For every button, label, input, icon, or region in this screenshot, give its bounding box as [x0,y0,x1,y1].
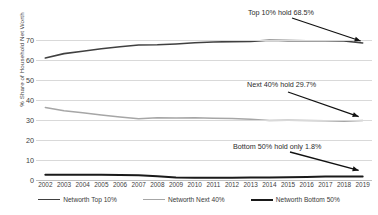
series-lines [36,40,372,180]
legend-label: Networth Top 10% [63,196,117,203]
x-tick-label: 2014 [262,181,276,188]
gridline [36,60,372,61]
chart-legend: Networth Top 10%Networth Next 40%Networt… [0,196,378,203]
y-tick-label: 0 [20,176,34,185]
legend-swatch-icon [251,199,273,201]
x-tick-label: 2012 [225,181,239,188]
x-tick-label: 2005 [94,181,108,188]
y-tick-label: 40 [20,96,34,105]
legend-label: Networth Next 40% [168,196,225,203]
x-axis-tick-labels: 2002200320042005200620072008200920102011… [36,181,372,193]
legend-item[interactable]: Networth Bottom 50% [251,196,340,203]
x-tick-label: 2013 [244,181,258,188]
y-tick-label: 70 [20,36,34,45]
y-axis-tick-labels: 706050403020100 [12,0,34,215]
x-tick-label: 2002 [38,181,52,188]
y-tick-label: 50 [20,76,34,85]
annotation-top-10: Top 10% hold 68.5% [248,8,314,17]
gridline [36,40,372,41]
x-tick-label: 2004 [76,181,90,188]
y-tick-label: 20 [20,136,34,145]
x-tick-label: 2017 [318,181,332,188]
x-tick-label: 2003 [57,181,71,188]
legend-item[interactable]: Networth Next 40% [143,196,225,203]
x-tick-label: 2010 [188,181,202,188]
annotation-next-40: Next 40% hold 29.7% [247,80,316,89]
x-tick-label: 2015 [281,181,295,188]
line-chart: % Share of Household Net Worth 706050403… [0,0,378,215]
gridline [36,80,372,81]
legend-label: Networth Bottom 50% [276,196,340,203]
gridline [36,160,372,161]
annotation-bottom-50: Bottom 50% hold only 1.8% [233,142,321,151]
legend-item[interactable]: Networth Top 10% [38,196,117,203]
gridline [36,140,372,141]
x-tick-label: 2011 [206,181,220,188]
x-tick-label: 2009 [169,181,183,188]
legend-swatch-icon [143,199,165,200]
y-tick-label: 10 [20,156,34,165]
x-tick-label: 2008 [150,181,164,188]
series-line [45,40,362,58]
y-tick-label: 30 [20,116,34,125]
x-tick-label: 2006 [113,181,127,188]
gridline [36,100,372,101]
y-tick-label: 60 [20,56,34,65]
plot-area [36,40,372,180]
legend-swatch-icon [38,199,60,200]
gridline [36,120,372,121]
x-tick-label: 2018 [337,181,351,188]
x-tick-label: 2019 [356,181,370,188]
x-tick-label: 2016 [300,181,314,188]
x-tick-label: 2007 [132,181,146,188]
series-line [45,175,362,178]
arrow-top-10 [292,18,361,42]
